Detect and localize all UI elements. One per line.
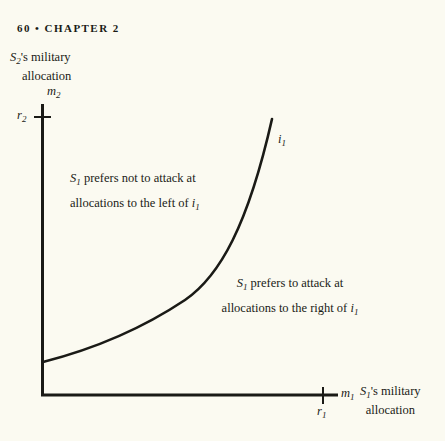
y-axis-caption-line2: allocation (10, 69, 71, 84)
x-axis-caption: S1's military allocation (360, 384, 421, 418)
y-axis-caption-line1: S2's military (10, 50, 71, 64)
curve-i1 (43, 119, 272, 362)
figure-page: 60 • CHAPTER 2 S2's military allocation … (0, 0, 445, 441)
annotation-left-line2: allocations to the left of i1 (70, 193, 200, 218)
annotation-right: S1 prefers to attack at allocations to t… (190, 273, 390, 322)
x-axis-caption-line2: allocation (360, 403, 421, 418)
annotation-left: S1 prefers not to attack at allocations … (70, 168, 200, 217)
annotation-right-line2: allocations to the right of i1 (190, 298, 390, 323)
annotation-left-line1: S1 prefers not to attack at (70, 168, 200, 193)
y-axis-tick-label-r2: r2 (17, 108, 26, 124)
x-axis-caption-line1: S1's military (360, 384, 421, 398)
curve-label-i1: i1 (278, 132, 286, 148)
y-axis-caption: S2's military allocation (10, 50, 71, 84)
x-axis-label-m1: m1 (341, 386, 355, 402)
x-axis-tick-label-r1: r1 (317, 404, 326, 420)
y-axis-label-m2: m2 (47, 84, 61, 100)
annotation-right-line1: S1 prefers to attack at (190, 273, 390, 298)
